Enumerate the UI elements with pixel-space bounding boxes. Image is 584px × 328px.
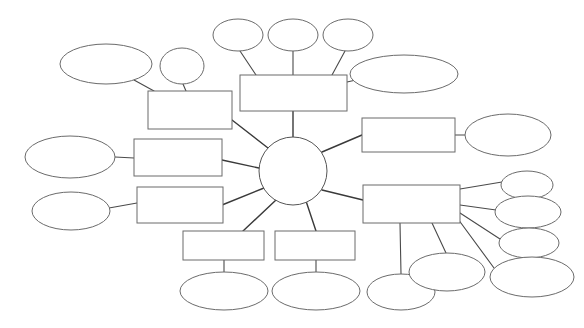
oval-top-left-large-shape[interactable] [60, 44, 152, 84]
node-oval-bottom-right-center[interactable] [272, 272, 360, 310]
connector-hub-to-box-mid-left [222, 160, 259, 168]
oval-right-3-shape[interactable] [499, 228, 559, 258]
connector-box-lower-left-to-oval-left-lower [109, 203, 137, 208]
connector-box-top-center-to-oval-top-1 [240, 51, 256, 75]
node-oval-top-3[interactable] [323, 19, 373, 51]
connector-hub-to-box-lower-right [322, 190, 363, 200]
box-lower-right-shape[interactable] [363, 185, 460, 223]
connector-box-lower-right-to-oval-bottom-mid-right [432, 223, 446, 253]
oval-top-1-shape[interactable] [213, 19, 263, 51]
connector-box-lower-right-to-oval-right-2 [460, 205, 496, 210]
node-box-mid-left[interactable] [134, 139, 222, 176]
connector-hub-to-box-lower-left [222, 188, 264, 205]
node-oval-bottom-mid-right[interactable] [409, 253, 485, 291]
oval-right-1-shape[interactable] [501, 171, 553, 199]
connector-box-lower-right-to-oval-right-1 [460, 182, 502, 189]
node-box-bottom-right-center[interactable] [275, 231, 355, 260]
connector-hub-to-box-upper-right [322, 135, 362, 152]
node-box-upper-right[interactable] [362, 118, 455, 152]
oval-top-left-small-shape[interactable] [160, 48, 204, 84]
box-mid-left-shape[interactable] [134, 139, 222, 176]
oval-bottom-right-center-shape[interactable] [272, 272, 360, 310]
node-box-top-center[interactable] [240, 75, 347, 111]
connector-box-upper-left-to-oval-top-left-large [134, 80, 154, 91]
connector-hub-to-box-bottom-right-center [306, 201, 316, 231]
box-lower-left-shape[interactable] [137, 187, 223, 223]
node-oval-left-lower[interactable] [32, 192, 110, 230]
box-upper-right-shape[interactable] [362, 118, 455, 152]
box-bottom-left-center-shape[interactable] [183, 231, 264, 260]
node-oval-top-left-small[interactable] [160, 48, 204, 84]
oval-top-right-wide-shape[interactable] [350, 55, 458, 93]
box-upper-left-shape[interactable] [148, 91, 232, 129]
node-box-lower-right[interactable] [363, 185, 460, 223]
node-oval-left-mid[interactable] [25, 136, 115, 178]
box-top-center-shape[interactable] [240, 75, 347, 111]
connector-box-top-center-to-oval-top-3 [332, 51, 345, 75]
node-oval-bottom-left-center[interactable] [180, 272, 268, 310]
node-box-bottom-left-center[interactable] [183, 231, 264, 260]
oval-right-4-shape[interactable] [490, 257, 574, 297]
oval-top-3-shape[interactable] [323, 19, 373, 51]
node-oval-top-left-large[interactable] [60, 44, 152, 84]
mind-map-svg [0, 0, 584, 328]
node-box-lower-left[interactable] [137, 187, 223, 223]
node-central-topic[interactable] [259, 137, 327, 205]
node-oval-right-1[interactable] [501, 171, 553, 199]
node-oval-top-2[interactable] [268, 19, 318, 51]
node-oval-right-upper[interactable] [465, 114, 551, 156]
node-oval-top-right-wide[interactable] [350, 55, 458, 93]
connector-box-lower-right-to-oval-right-3 [460, 213, 500, 239]
node-oval-top-1[interactable] [213, 19, 263, 51]
connector-box-mid-left-to-oval-left-mid [115, 157, 134, 158]
connector-box-lower-right-to-oval-bottom-under-box [400, 223, 401, 274]
oval-right-2-shape[interactable] [495, 196, 561, 228]
hub-layer [259, 137, 327, 205]
node-box-upper-left[interactable] [148, 91, 232, 129]
oval-bottom-mid-right-shape[interactable] [409, 253, 485, 291]
connector-hub-to-box-upper-left [232, 120, 268, 148]
node-oval-right-4[interactable] [490, 257, 574, 297]
node-oval-right-3[interactable] [499, 228, 559, 258]
oval-left-mid-shape[interactable] [25, 136, 115, 178]
oval-top-2-shape[interactable] [268, 19, 318, 51]
oval-right-upper-shape[interactable] [465, 114, 551, 156]
oval-bottom-left-center-shape[interactable] [180, 272, 268, 310]
connector-box-upper-left-to-oval-top-left-small [183, 84, 186, 91]
box-bottom-right-center-shape[interactable] [275, 231, 355, 260]
connector-hub-to-box-bottom-left-center [243, 200, 276, 231]
oval-left-lower-shape[interactable] [32, 192, 110, 230]
node-oval-right-2[interactable] [495, 196, 561, 228]
diagram-canvas [0, 0, 584, 328]
central-topic-shape[interactable] [259, 137, 327, 205]
